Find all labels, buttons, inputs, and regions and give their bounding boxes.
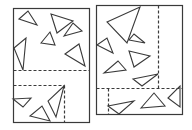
- left-panel: [13, 9, 90, 123]
- panels-layer: [13, 6, 183, 123]
- triangle-shape: [168, 86, 180, 107]
- triangle-shape: [48, 86, 64, 117]
- triangles-partition-diagram: [0, 0, 192, 130]
- triangle-shape: [13, 98, 31, 107]
- triangle-shape: [19, 11, 37, 25]
- right-panel: [97, 6, 183, 115]
- triangle-shape: [108, 101, 134, 114]
- triangle-shape: [30, 106, 50, 121]
- triangle-shape: [97, 38, 113, 53]
- triangle-shape: [14, 38, 26, 70]
- triangle-shape: [65, 44, 85, 66]
- triangle-shape: [133, 74, 158, 86]
- triangle-shape: [129, 51, 150, 67]
- triangle-shape: [51, 14, 73, 33]
- triangle-shape: [107, 7, 140, 43]
- triangle-shape: [129, 34, 145, 43]
- triangle-shape: [104, 61, 126, 73]
- panel-border: [97, 6, 183, 115]
- triangle-shape: [141, 93, 165, 108]
- triangle-shape: [64, 23, 82, 36]
- triangle-shape: [41, 32, 55, 45]
- diagram-canvas: [0, 0, 192, 130]
